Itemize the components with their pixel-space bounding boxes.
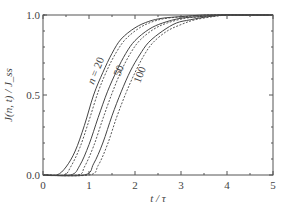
- x-tick-label: 0: [40, 179, 46, 191]
- y-axis-title: J(n, t) / J_ss: [2, 68, 15, 122]
- plot-border: [43, 15, 273, 175]
- curve-label-n-100: 100: [131, 64, 148, 84]
- y-tick-label: 0.5: [26, 89, 40, 101]
- x-tick-label: 2: [132, 179, 138, 191]
- plot-frame: [43, 15, 273, 175]
- curve-n-100-dashed-: [43, 15, 273, 176]
- curve-n-50-dashed-: [43, 15, 273, 176]
- curve-label-n-20: n = 20: [84, 55, 106, 86]
- x-axis-title: t / τ: [150, 192, 167, 204]
- curve-n-100-solid-: [43, 15, 273, 176]
- x-tick-label: 5: [270, 179, 276, 191]
- chart: 0123450.00.51.0t / τJ(n, t) / J_ss n = 2…: [0, 0, 286, 210]
- curve-labels: n = 2050100: [84, 55, 148, 86]
- curve-n-20-solid-: [43, 15, 273, 176]
- y-tick-label: 1.0: [26, 9, 40, 21]
- curves: [43, 15, 273, 176]
- x-tick-label: 3: [178, 179, 184, 191]
- axis-ticks: [43, 15, 273, 175]
- curve-n-20-dashed-: [43, 15, 273, 176]
- x-tick-label: 4: [224, 179, 230, 191]
- x-tick-label: 1: [86, 179, 92, 191]
- y-tick-label: 0.0: [26, 169, 40, 181]
- curve-n-50-solid-: [43, 15, 273, 176]
